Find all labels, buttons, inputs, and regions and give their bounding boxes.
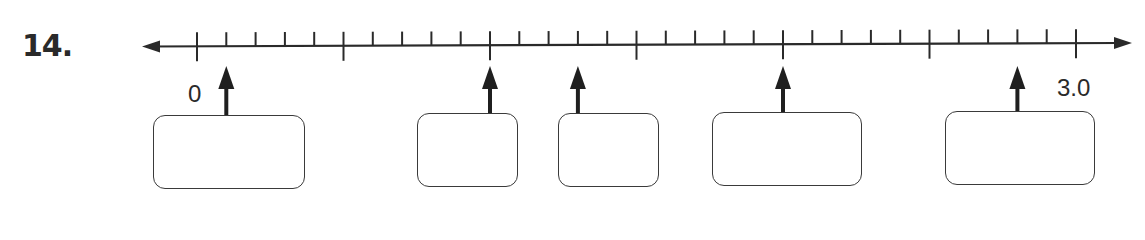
answer-box-2[interactable] — [417, 113, 518, 187]
pointer-arrow-icon — [482, 66, 498, 114]
pointer-arrow-icon — [570, 66, 586, 114]
axis-line — [150, 43, 1118, 47]
pointer-arrow-icon — [218, 66, 234, 116]
answer-box-3[interactable] — [558, 113, 659, 187]
answer-box-1[interactable] — [153, 115, 305, 189]
start-label: 0 — [188, 80, 201, 108]
answer-box-4[interactable] — [712, 112, 862, 186]
pointer-arrows — [218, 66, 1025, 116]
pointer-arrow-icon — [1009, 66, 1025, 112]
answer-box-5[interactable] — [945, 111, 1095, 185]
pointer-arrow-icon — [775, 66, 791, 113]
right-arrowhead-icon — [1114, 37, 1132, 49]
end-label: 3.0 — [1057, 74, 1090, 102]
left-arrowhead-icon — [142, 41, 160, 53]
